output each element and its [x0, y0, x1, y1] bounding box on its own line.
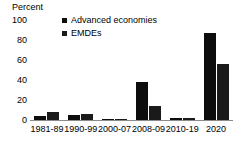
- y-axis-tick-label: 60: [0, 56, 27, 65]
- x-axis-line: [30, 120, 233, 121]
- y-axis: 020406080100: [0, 20, 27, 120]
- bar-group: [64, 20, 98, 120]
- bar: [47, 112, 59, 120]
- x-axis-tick-label: 2020: [199, 124, 233, 134]
- x-axis-tick-label: 1981-89: [30, 124, 64, 134]
- x-axis-tick-label: 2010-19: [165, 124, 199, 134]
- x-axis-tick-label: 2008-09: [132, 124, 166, 134]
- plot-area: [30, 20, 233, 120]
- bar-group: [98, 20, 132, 120]
- bar-group: [165, 20, 199, 120]
- x-axis: 1981-891990-992000-072008-092010-192020: [30, 122, 233, 138]
- bar-group: [30, 20, 64, 120]
- y-axis-tick-label: 0: [0, 116, 27, 125]
- y-axis-tick-label: 20: [0, 96, 27, 105]
- x-axis-tick-label: 1990-99: [64, 124, 98, 134]
- bar-group: [199, 20, 233, 120]
- y-axis-tick-label: 40: [0, 76, 27, 85]
- bar-chart: Percent Advanced economies EMDEs 0204060…: [0, 0, 238, 147]
- bar: [136, 82, 148, 120]
- bar: [217, 64, 229, 120]
- bar-group: [132, 20, 166, 120]
- y-axis-tick-label: 80: [0, 36, 27, 45]
- bar: [149, 106, 161, 120]
- y-axis-title: Percent: [12, 2, 43, 12]
- bar: [204, 33, 216, 120]
- y-axis-tick-label: 100: [0, 16, 27, 25]
- x-axis-tick-label: 2000-07: [98, 124, 132, 134]
